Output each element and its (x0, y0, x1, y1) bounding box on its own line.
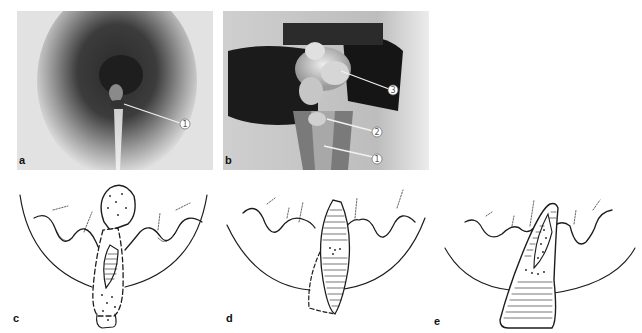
panel-label-a: a (19, 155, 25, 166)
callout-number-2: 2 (374, 128, 379, 137)
panel-label-c: c (13, 313, 19, 324)
panel-d-diagram: d (215, 170, 430, 333)
panel-a-photo: 1 a (17, 11, 213, 170)
callout-number-3: 3 (390, 86, 395, 95)
diagram-c-drawing (0, 170, 215, 333)
callout-number-1b: 1 (374, 155, 379, 164)
callout-number-1: 1 (182, 120, 187, 129)
diagram-e-drawing (430, 170, 642, 333)
panel-label-e: e (434, 316, 440, 327)
photo-a-image: 1 (17, 11, 213, 170)
diagram-d-drawing (215, 170, 430, 333)
panel-b-photo: 3 2 1 b (223, 11, 429, 170)
panel-label-d: d (226, 313, 233, 324)
panel-c-diagram: c (0, 170, 215, 333)
panel-label-b: b (225, 155, 232, 166)
panel-e-diagram: e (430, 170, 642, 333)
photo-b-image: 3 2 1 (223, 11, 429, 170)
